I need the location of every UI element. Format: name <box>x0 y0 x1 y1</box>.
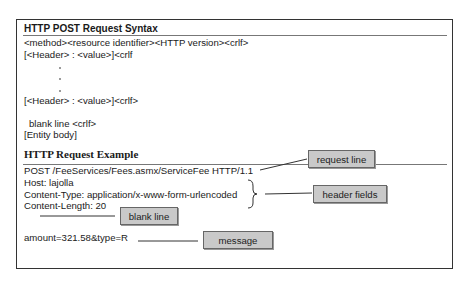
callout-request-line: request line <box>308 150 375 168</box>
callout-message: message <box>203 231 273 249</box>
callout-blank-line: blank line <box>120 207 178 225</box>
callout-header-fields: header fields <box>313 185 387 203</box>
